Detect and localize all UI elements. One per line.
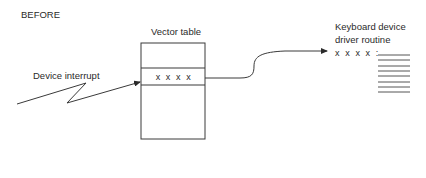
driver-entry-address: x x x x : [335,48,380,58]
vector-pointer-arrow [205,51,327,78]
diagram-title: BEFORE [21,9,60,20]
driver-label-line2: driver routine [335,34,390,45]
device-interrupt-label: Device interrupt [33,70,100,81]
interrupt-lightning-arrow [17,82,140,104]
driver-code-lines [378,55,410,92]
driver-label-line1: Keyboard device [335,21,406,32]
diagram-canvas: BEFORE Vector table x x x x Device inter… [0,0,426,178]
vector-table-label: Vector table [151,26,201,37]
vector-table [141,43,205,139]
vector-table-entry: x x x x [156,72,193,82]
